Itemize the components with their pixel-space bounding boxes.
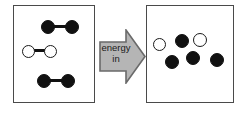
- atom-dark: [175, 34, 189, 48]
- energy-in-arrow: energy in: [99, 29, 146, 84]
- diagram-canvas: energy in: [0, 0, 243, 113]
- atom-dark: [41, 20, 55, 34]
- atom-light: [193, 33, 207, 47]
- atom-dark: [37, 74, 51, 88]
- left-panel-reactants: [13, 5, 95, 103]
- atom-dark: [61, 74, 75, 88]
- atom-dark: [186, 51, 200, 65]
- atom-dark: [210, 53, 224, 67]
- right-panel-products: [146, 5, 234, 103]
- atom-dark: [65, 20, 79, 34]
- atom-light: [22, 45, 35, 58]
- atom-light: [153, 38, 166, 51]
- arrow-right-icon: [99, 29, 146, 84]
- atom-dark: [165, 55, 179, 69]
- atom-light: [44, 45, 57, 58]
